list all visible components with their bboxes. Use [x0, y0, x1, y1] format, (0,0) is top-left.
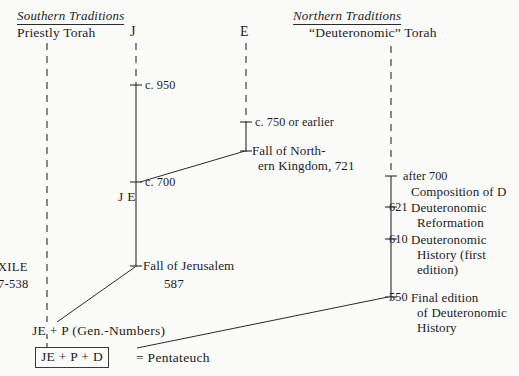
exile-label: XILE: [0, 261, 28, 274]
event-deuteronomic-reformation-line1: Deuteronomic: [411, 201, 487, 215]
event-final-edition-line3: History: [417, 321, 457, 335]
event-deuteronomic-history-line2: History (first: [417, 248, 486, 262]
date-610: 610: [389, 233, 408, 246]
event-fall-of-jerusalem-date: 587: [164, 277, 184, 291]
event-composition-of-d: Composition of D: [411, 185, 507, 199]
node-je-plus-p: JE + P (Gen.-Numbers): [32, 324, 165, 338]
northern-traditions-title: Northern Traditions: [293, 9, 401, 25]
column-head-priestly-torah: Priestly Torah: [17, 26, 95, 40]
event-final-edition-line2: of Deuteronomic: [417, 306, 507, 320]
event-deuteronomic-history-line1: Deuteronomic: [411, 233, 487, 247]
date-621: 621: [389, 201, 408, 214]
date-c700: c. 700: [145, 176, 175, 189]
event-deuteronomic-history-line3: edition): [417, 263, 458, 277]
event-fall-of-jerusalem: Fall of Jerusalem: [143, 259, 234, 273]
connector-d-to-pentateuch: [137, 297, 388, 348]
timeline-diagram: Southern Traditions Northern Traditions …: [0, 0, 519, 376]
date-550: 550: [389, 291, 408, 304]
exile-dates: 7-538: [0, 278, 29, 291]
column-head-deuteronomic-torah: “Deuteronomic” Torah: [309, 26, 437, 40]
column-head-j: J: [130, 25, 135, 40]
event-fall-northern-kingdom-line1: Fall of North-: [252, 144, 326, 158]
connector-jerusalem-to-jep: [57, 267, 135, 322]
date-after-700: after 700: [403, 170, 448, 183]
date-c950: c. 950: [145, 79, 175, 92]
event-final-edition-line1: Final edition: [411, 291, 478, 305]
southern-traditions-title: Southern Traditions: [17, 9, 124, 25]
date-c750: c. 750 or earlier: [255, 116, 334, 129]
event-fall-northern-kingdom-line2: ern Kingdom, 721: [258, 159, 355, 173]
event-deuteronomic-reformation-line2: Reformation: [417, 216, 484, 230]
column-head-e: E: [240, 25, 249, 40]
node-je-plus-p-plus-d-box: JE + P + D: [35, 347, 109, 368]
pentateuch-equals-label: = Pentateuch: [136, 350, 210, 366]
node-je: J E: [118, 190, 136, 204]
